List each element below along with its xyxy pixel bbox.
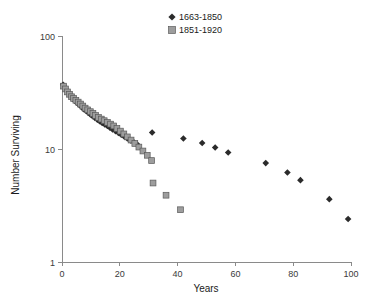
data-point [284,169,291,176]
series-1 [60,81,352,222]
data-point [297,177,304,184]
data-point [212,144,219,151]
data-point [262,160,269,167]
x-axis-title: Years [193,283,218,294]
legend-marker-square [169,27,176,34]
y-tick-label: 100 [40,32,55,42]
data-point [144,152,150,158]
series-2 [61,83,184,212]
x-tick-label: 0 [59,269,64,279]
data-point [345,216,352,223]
chart-legend: 1663-18501851-1920 [168,12,222,35]
scatter-chart: 110100020406080100 1663-18501851-1920 Ye… [0,0,374,302]
data-point [163,192,169,198]
data-point [326,196,333,203]
data-point [178,207,184,213]
axes [62,36,351,262]
data-point [180,135,187,142]
data-point [149,158,155,164]
data-point [225,149,232,156]
data-point [199,140,206,147]
y-axis-title: Number Surviving [10,115,21,194]
data-point [149,129,156,136]
axis-tick-labels: 110100020406080100 [40,32,359,280]
x-tick-label: 80 [288,269,298,279]
data-point [150,180,156,186]
y-tick-label: 10 [45,145,55,155]
y-tick-label: 1 [50,258,55,268]
x-tick-label: 60 [230,269,240,279]
x-tick-label: 20 [115,269,125,279]
axis-ticks [58,36,351,266]
x-tick-label: 100 [343,269,358,279]
legend-label: 1663-1850 [179,12,222,22]
data-points [60,81,352,222]
legend-label: 1851-1920 [179,25,222,35]
x-tick-label: 40 [173,269,183,279]
chart-canvas: 110100020406080100 1663-18501851-1920 Ye… [0,0,374,302]
legend-marker-diamond [168,13,175,20]
